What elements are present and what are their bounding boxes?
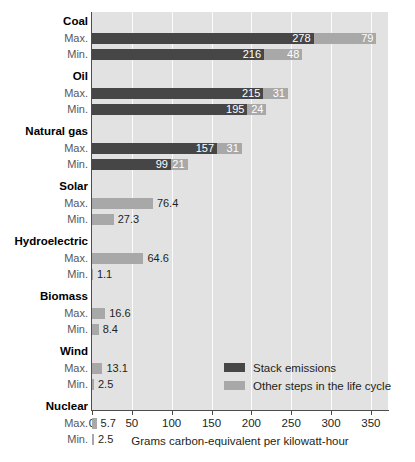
- bar-segment-other-steps: [92, 198, 153, 209]
- bar-segment-other-steps: [92, 418, 97, 429]
- bar-row: 21648: [92, 49, 302, 60]
- legend-item-other-steps: Other steps in the life cycle: [224, 378, 391, 393]
- gridline: [371, 12, 372, 410]
- bar-segment-stack-emissions: 195: [92, 104, 247, 115]
- row-label-coal-max: Max.: [0, 32, 88, 44]
- gridline: [331, 12, 332, 410]
- row-label-natural-gas-max: Max.: [0, 142, 88, 154]
- bar-value-label: 16.6: [109, 307, 130, 320]
- x-tick-label: 300: [321, 417, 340, 429]
- bar-segment-other-steps: 31: [217, 143, 242, 154]
- row-label-biomass-max: Max.: [0, 307, 88, 319]
- x-tick-label: 200: [242, 417, 261, 429]
- legend-label-other-steps: Other steps in the life cycle: [253, 380, 391, 392]
- bar-row: 5.7: [92, 418, 97, 429]
- bar-row: 8.4: [92, 324, 99, 335]
- bar-value-label: 76.4: [157, 197, 178, 210]
- bar-segment-other-steps: 48: [264, 49, 302, 60]
- bar-value-label: 215: [242, 87, 260, 100]
- bar-row: 21531: [92, 88, 288, 99]
- x-axis-line: [91, 410, 389, 411]
- bar-value-label: 216: [243, 48, 261, 61]
- x-tick: [371, 410, 372, 415]
- bar-segment-other-steps: [92, 434, 94, 445]
- bar-segment-other-steps: 24: [247, 104, 266, 115]
- legend-item-stack-emissions: Stack emissions: [224, 360, 391, 375]
- bar-value-label: 1.1: [97, 268, 112, 281]
- bar-segment-other-steps: 21: [171, 159, 188, 170]
- emissions-bar-chart: 050100150200250300350 CoalMax.Min.OilMax…: [0, 0, 415, 462]
- gridline: [291, 12, 292, 410]
- bar-segment-other-steps: [92, 363, 102, 374]
- x-tick: [291, 410, 292, 415]
- bar-row: 1.1: [92, 269, 93, 280]
- x-tick-label: 250: [282, 417, 301, 429]
- row-label-solar-min: Min.: [0, 213, 88, 225]
- bar-value-label: 2.5: [98, 378, 113, 391]
- bar-segment-stack-emissions: 99: [92, 159, 171, 170]
- bar-value-label: 24: [251, 103, 263, 116]
- x-tick-label: 350: [361, 417, 380, 429]
- row-label-wind-min: Min.: [0, 378, 88, 390]
- bar-segment-other-steps: 79: [314, 33, 377, 44]
- bar-value-label: 13.1: [106, 362, 127, 375]
- bar-value-label: 48: [287, 48, 299, 61]
- bar-value-label: 31: [273, 87, 285, 100]
- x-tick: [331, 410, 332, 415]
- category-label-solar: Solar: [0, 180, 88, 192]
- gridline: [132, 12, 133, 410]
- row-label-hydroelectric-min: Min.: [0, 268, 88, 280]
- bar-segment-other-steps: [92, 308, 105, 319]
- gridline: [172, 12, 173, 410]
- bar-value-label: 195: [226, 103, 244, 116]
- bar-row: 16.6: [92, 308, 105, 319]
- row-label-oil-max: Max.: [0, 87, 88, 99]
- bar-row: 15731: [92, 143, 242, 154]
- bar-value-label: 278: [292, 32, 310, 45]
- x-tick: [92, 410, 93, 415]
- bar-row: 13.1: [92, 363, 102, 374]
- row-label-nuclear-max: Max.: [0, 417, 88, 429]
- bar-value-label: 99: [156, 158, 168, 171]
- row-label-natural-gas-min: Min.: [0, 158, 88, 170]
- row-label-nuclear-min: Min.: [0, 433, 88, 445]
- x-tick-label: 150: [202, 417, 221, 429]
- gridline: [212, 12, 213, 410]
- bar-row: 76.4: [92, 198, 153, 209]
- bar-segment-stack-emissions: 215: [92, 88, 263, 99]
- bar-segment-stack-emissions: 216: [92, 49, 264, 60]
- bar-row: 2.5: [92, 434, 94, 445]
- bar-value-label: 21: [172, 158, 184, 171]
- bar-row: 64.6: [92, 253, 143, 264]
- bar-segment-other-steps: [92, 253, 143, 264]
- bar-segment-other-steps: [92, 324, 99, 335]
- chart-legend: Stack emissions Other steps in the life …: [224, 360, 391, 396]
- category-label-natural-gas: Natural gas: [0, 125, 88, 137]
- bar-segment-other-steps: [92, 269, 93, 280]
- category-label-hydroelectric: Hydroelectric: [0, 235, 88, 247]
- bar-value-label: 8.4: [103, 323, 118, 336]
- row-label-hydroelectric-max: Max.: [0, 252, 88, 264]
- category-label-coal: Coal: [0, 15, 88, 27]
- bar-segment-other-steps: [92, 214, 114, 225]
- x-tick: [251, 410, 252, 415]
- bar-segment-other-steps: [92, 379, 94, 390]
- bar-row: 9921: [92, 159, 188, 170]
- x-tick-label: 50: [125, 417, 138, 429]
- row-label-coal-min: Min.: [0, 48, 88, 60]
- row-label-wind-max: Max.: [0, 362, 88, 374]
- bar-value-label: 157: [196, 142, 214, 155]
- bar-value-label: 27.3: [118, 213, 139, 226]
- category-label-biomass: Biomass: [0, 290, 88, 302]
- category-label-nuclear: Nuclear: [0, 400, 88, 412]
- category-label-wind: Wind: [0, 345, 88, 357]
- row-label-biomass-min: Min.: [0, 323, 88, 335]
- gridline: [251, 12, 252, 410]
- bar-row: 19524: [92, 104, 266, 115]
- row-label-solar-max: Max.: [0, 197, 88, 209]
- bar-value-label: 79: [361, 32, 373, 45]
- row-label-oil-min: Min.: [0, 103, 88, 115]
- legend-swatch-stack-emissions: [224, 363, 245, 372]
- x-axis-title: Grams carbon-equivalent per kilowatt-hou…: [92, 435, 388, 447]
- legend-swatch-other-steps: [224, 381, 245, 390]
